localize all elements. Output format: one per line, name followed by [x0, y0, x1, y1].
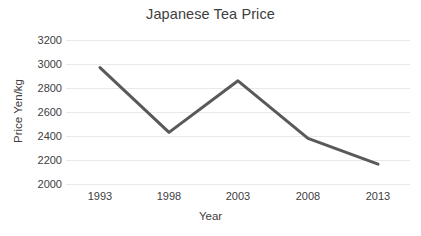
- y-tick-label: 2000: [18, 179, 62, 190]
- x-axis-title: Year: [0, 210, 421, 222]
- y-tick-label: 3000: [18, 59, 62, 70]
- chart-container: Japanese Tea Price Price Yen/kg 3200 300…: [0, 0, 421, 236]
- gridline: [66, 184, 410, 185]
- series-line-price: [66, 40, 410, 184]
- chart-title: Japanese Tea Price: [0, 6, 421, 22]
- y-tick-label: 2400: [18, 131, 62, 142]
- y-tick-label: 2600: [18, 107, 62, 118]
- plot-area: [66, 40, 410, 184]
- x-tick-label-2008: 2008: [278, 190, 338, 202]
- x-tick-label-1993: 1993: [70, 190, 130, 202]
- x-tick-label-1998: 1998: [139, 190, 199, 202]
- y-tick-label: 2200: [18, 155, 62, 166]
- y-tick-label: 2800: [18, 83, 62, 94]
- x-tick-label-2003: 2003: [208, 190, 268, 202]
- y-tick-label: 3200: [18, 35, 62, 46]
- x-tick-label-2013: 2013: [348, 190, 408, 202]
- y-axis-tick-labels: 3200 3000 2800 2600 2400 2200 2000: [16, 0, 62, 236]
